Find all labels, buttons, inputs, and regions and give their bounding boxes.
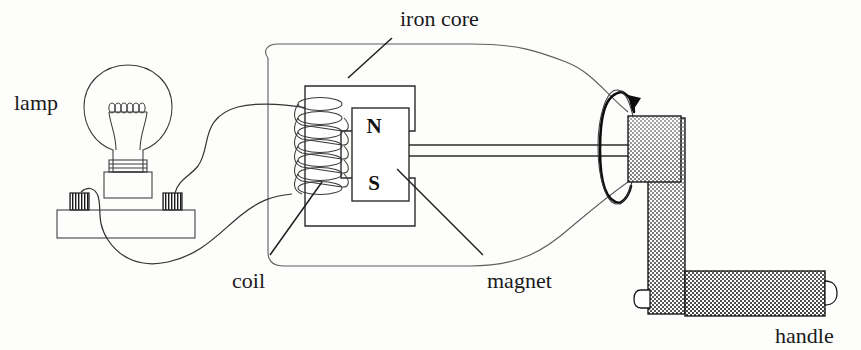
label-lamp: lamp (14, 90, 58, 115)
terminal-post-right (163, 193, 182, 210)
wire-lower (81, 189, 292, 264)
magnet-north-label: N (366, 114, 381, 138)
lamp-assembly (57, 65, 195, 238)
label-handle: handle (775, 323, 834, 348)
handle-crank (628, 116, 837, 316)
dynamo-diagram: N S (0, 0, 861, 350)
wire-upper (175, 104, 308, 193)
handle-grip (685, 271, 825, 316)
label-coil: coil (232, 268, 265, 293)
figure-canvas: N S (0, 0, 861, 350)
label-iron-core: iron core (400, 6, 479, 31)
circuit-wires (81, 104, 308, 264)
lamp-socket (104, 172, 152, 198)
filament-support-right (140, 112, 147, 150)
terminal-post-left (70, 193, 89, 210)
bulb-glass (84, 65, 172, 172)
filament-support-left (109, 112, 116, 150)
magnet-bar: N S (352, 108, 409, 201)
lamp-base-plate (57, 210, 195, 238)
crank-hub (628, 116, 681, 182)
bulb-screw-base (109, 160, 147, 172)
magnet-south-label: S (368, 171, 380, 195)
label-magnet: magnet (487, 268, 552, 293)
handle-end-cap (825, 281, 837, 305)
crank-pivot-stub (634, 290, 650, 308)
